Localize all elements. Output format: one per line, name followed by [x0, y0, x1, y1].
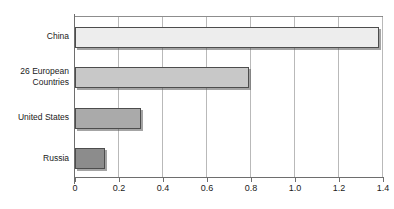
- axis-tick-label: 0.2: [99, 183, 139, 193]
- category-label-line: 26 European: [0, 66, 69, 77]
- category-label-line: United States: [0, 112, 69, 123]
- bar[interactable]: [75, 148, 105, 169]
- axis-tick: [383, 178, 384, 182]
- axis-tick-label: 0: [55, 183, 95, 193]
- axis-tick: [75, 178, 76, 182]
- value-axis-line: [74, 14, 75, 184]
- axis-tick: [339, 178, 340, 182]
- category-axis: China26 EuropeanCountriesUnited StatesRu…: [0, 16, 72, 178]
- axis-tick-label: 1.4: [363, 183, 394, 193]
- category-label: Russia: [0, 153, 69, 164]
- bar[interactable]: [75, 27, 379, 48]
- axis-tick: [163, 178, 164, 182]
- category-label: 26 EuropeanCountries: [0, 66, 69, 87]
- category-label-line: Countries: [0, 77, 69, 88]
- axis-tick-label: 1.0: [275, 183, 315, 193]
- axis-tick-label: 0.6: [187, 183, 227, 193]
- axis-tick-label: 0.4: [143, 183, 183, 193]
- gridline: [382, 17, 383, 178]
- axis-tick: [119, 178, 120, 182]
- bar[interactable]: [75, 108, 141, 129]
- axis-tick-label: 1.2: [319, 183, 359, 193]
- category-label-line: China: [0, 31, 69, 42]
- axis-tick-label: 0.8: [231, 183, 271, 193]
- bar-series: [75, 17, 382, 178]
- bar-chart-figure: China26 EuropeanCountriesUnited StatesRu…: [0, 0, 394, 209]
- axis-tick: [295, 178, 296, 182]
- category-label: China: [0, 31, 69, 42]
- bar[interactable]: [75, 67, 249, 88]
- axis-tick: [207, 178, 208, 182]
- axis-tick: [251, 178, 252, 182]
- plot-area: [75, 16, 383, 178]
- chart-title: [0, 0, 394, 2]
- value-axis: 00.20.40.60.81.01.21.4: [75, 178, 384, 206]
- category-label-line: Russia: [0, 153, 69, 164]
- category-label: United States: [0, 112, 69, 123]
